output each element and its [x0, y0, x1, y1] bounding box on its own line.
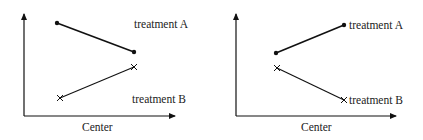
treatment-b-x-marker-low [57, 95, 63, 101]
treatment-a-point-high [132, 50, 136, 54]
treatment-a-line [57, 23, 134, 52]
treatment-b-x-marker-high [341, 97, 347, 103]
x-axis-label: Center [301, 121, 332, 133]
label-treatment-b: treatment B [349, 94, 403, 106]
treatment-a-point-low [274, 51, 278, 55]
treatment-b-line [60, 67, 134, 98]
right-panel: treatment A treatment B Center [236, 14, 404, 133]
treatment-a-point-low [55, 21, 59, 25]
treatment-b-x-marker-low [274, 65, 280, 71]
treatment-b-line [277, 68, 344, 100]
left-panel: treatment A treatment B Center [24, 14, 189, 133]
treatment-a-line [276, 25, 344, 53]
treatment-a-point-high [342, 23, 346, 27]
label-treatment-a: treatment A [349, 19, 404, 31]
x-axis-label: Center [82, 121, 113, 133]
label-treatment-a: treatment A [134, 18, 189, 30]
interaction-diagram: treatment A treatment B Center treatment… [0, 0, 423, 140]
label-treatment-b: treatment B [132, 93, 186, 105]
treatment-b-x-marker-high [131, 64, 137, 70]
